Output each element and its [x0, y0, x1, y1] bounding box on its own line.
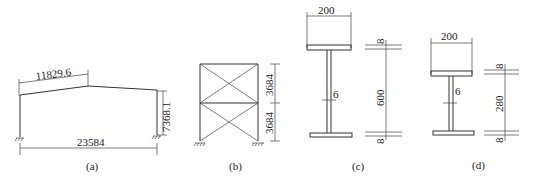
fixed-support-icon — [252, 143, 264, 146]
figure-d-i-section: 200 6 8 280 8 (d) — [431, 30, 519, 172]
upper-story-label: 3684 — [263, 74, 275, 97]
bottom-flange-label: 8 — [374, 138, 386, 144]
flange-width-label: 200 — [441, 30, 458, 42]
figure-c-i-section: 200 6 8 600 8 (c) — [307, 4, 402, 173]
caption-b: (b) — [229, 160, 242, 173]
web-height-label: 600 — [374, 89, 386, 106]
web-thickness-label: 6 — [333, 88, 339, 100]
figure-b-braced-frame: 3684 3684 (b) — [194, 64, 280, 173]
fixed-support-icon — [194, 143, 205, 146]
pin-support-icon — [15, 138, 24, 141]
web-thickness-label: 6 — [455, 85, 461, 97]
pin-support-icon — [152, 136, 161, 139]
bottom-flange-label: 8 — [493, 137, 505, 143]
caption-a: (a) — [86, 160, 99, 173]
web-height-label: 280 — [493, 95, 505, 112]
rafter-length-label: 11829.6 — [35, 66, 72, 82]
structural-drawing: 11829.6 7368.1 23584 (a) — [0, 0, 535, 185]
flange-width-label: 200 — [318, 4, 335, 16]
span-label: 23584 — [77, 136, 105, 148]
top-flange-label: 8 — [374, 38, 386, 44]
caption-c: (c) — [352, 160, 365, 173]
column-height-label: 7368.1 — [160, 102, 172, 132]
lower-story-label: 3684 — [263, 112, 275, 135]
figure-a-portal-frame: 11829.6 7368.1 23584 (a) — [15, 66, 172, 173]
caption-d: (d) — [472, 159, 485, 172]
top-flange-label: 8 — [493, 63, 505, 69]
